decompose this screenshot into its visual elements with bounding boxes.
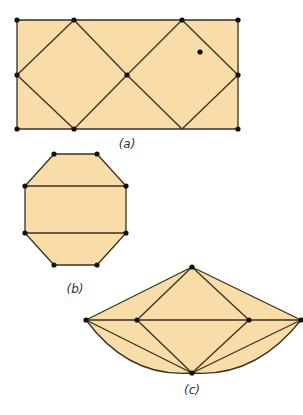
vertex-dot [51,151,56,156]
vertex-dot [123,230,128,235]
vertex-dot [235,72,240,77]
vertex-dot [14,72,19,77]
vertex-dot [246,317,251,322]
vertex-dot [22,230,27,235]
figure-b-octagon [22,151,128,267]
caption-c: (c) [184,383,200,397]
vertex-dot [71,17,76,22]
interior-point-dot [197,49,202,54]
caption-b: (b) [67,282,84,296]
vertex-dot [22,183,27,188]
vertex-dot [124,72,129,77]
caption-a: (a) [119,137,136,151]
vertex-dot [189,264,194,269]
vertex-dot [83,317,88,322]
vertex-dot [94,262,99,267]
vertex-dot [51,262,56,267]
figure-a-rectangle [14,17,240,131]
vertex-dot [14,126,19,131]
vertex-dot [235,17,240,22]
figure-outline [25,154,126,265]
vertex-dot [134,317,139,322]
figure-c-kite-arc [83,264,303,375]
vertex-dot [71,126,76,131]
vertex-dot [14,17,19,22]
vertex-dot [123,183,128,188]
diagram-canvas: (a) (b) (c) [0,0,303,415]
vertex-dot [179,17,184,22]
vertex-dot [94,151,99,156]
vertex-dot [189,370,194,375]
vertex-dot [235,126,240,131]
